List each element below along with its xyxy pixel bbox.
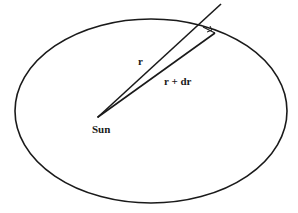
sun-label: Sun [92,124,110,135]
sun-point [97,116,99,118]
r-plus-dr-label: r + dr [164,76,191,87]
r-label: r [138,56,143,67]
orbit-diagram [0,0,298,213]
orbit-ellipse [15,19,287,203]
radius-line-r-plus-dr [98,33,215,117]
radius-line-r [98,4,221,117]
